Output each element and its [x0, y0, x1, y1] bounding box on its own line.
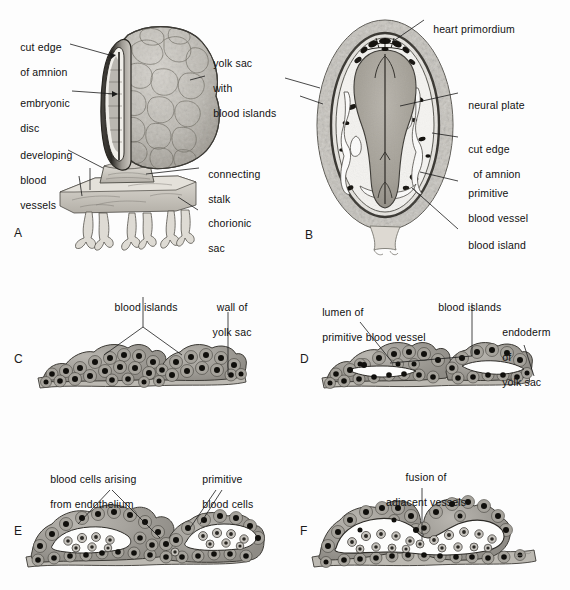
label-line: fusion of — [406, 471, 447, 483]
label-line: embryonic — [20, 97, 70, 109]
panel-letter-e: E — [14, 524, 23, 538]
label-neural-plate-b: neural plate — [462, 86, 525, 111]
label-line: from endothelium — [50, 498, 134, 510]
label-primitive-blood-cells-e: primitive blood cells — [196, 460, 253, 510]
label-heart-primordium-b: heart primordium — [427, 10, 515, 35]
panel-letter-d: D — [300, 352, 309, 366]
label-line: blood island — [468, 239, 526, 251]
label-yolk-sac-with-blood-islands-a: yolk sac with blood islands — [207, 44, 276, 120]
label-blood-islands-c: blood islands — [78, 288, 208, 313]
panel-b-illustration — [285, 18, 458, 255]
label-line: neural plate — [468, 99, 525, 111]
label-fusion-of-adjacent-vessels-f: fusion of adjacent vessels — [358, 458, 488, 508]
label-line: lumen of — [322, 306, 363, 318]
label-line: cut edge — [20, 41, 61, 53]
panel-letter-c: C — [14, 352, 23, 366]
label-line: wall of — [217, 301, 248, 313]
label-wall-of-yolk-sac-c: wall of yolk sac — [192, 288, 266, 338]
label-line: heart primordium — [433, 23, 515, 35]
label-blood-island-b: blood island — [462, 226, 526, 251]
label-line: blood — [20, 174, 46, 186]
label-line: blood islands — [438, 301, 501, 313]
label-line: vessels — [20, 199, 56, 211]
label-lumen-of-primitive-blood-vessel-d: lumen of primitive blood vessel — [316, 293, 426, 343]
label-line: primitive — [468, 187, 508, 199]
label-cut-edge-of-amnion-a: cut edge of amnion — [14, 28, 68, 78]
neural-plate-shape — [350, 46, 420, 212]
b-stalk-stub — [370, 226, 400, 255]
label-line: of amnion — [20, 66, 67, 78]
label-line: blood cells — [202, 498, 253, 510]
label-line: primitive — [202, 473, 242, 485]
yolk-sac-shape — [119, 24, 221, 170]
embryonic-disc-shape — [101, 39, 131, 170]
label-line: with — [213, 82, 232, 94]
panel-letter-f: F — [300, 524, 308, 538]
label-line: disc — [20, 122, 39, 134]
label-line: blood islands — [213, 107, 276, 119]
label-line: cut edge — [468, 143, 509, 155]
label-line: chorionic — [208, 217, 251, 229]
panel-letter-a: A — [14, 226, 23, 240]
label-blood-islands-d: blood islands — [432, 288, 501, 313]
label-line: sac — [208, 242, 225, 254]
label-line: endoderm — [502, 326, 550, 338]
label-line: yolk sac — [213, 57, 252, 69]
figure-plate: cut edge of amnion embryonic disc develo… — [0, 0, 570, 590]
label-line: adjacent vessels — [386, 496, 466, 508]
panel-a-illustration — [60, 24, 221, 250]
label-line: blood islands — [114, 301, 177, 313]
label-cut-edge-of-amnion-b: cut edge of amnion — [462, 130, 521, 180]
label-line: connecting — [208, 168, 260, 180]
label-line: yolk sac — [213, 326, 252, 338]
label-connecting-stalk-a: connecting stalk — [202, 155, 260, 205]
chorionic-villi — [75, 210, 194, 250]
label-embryonic-disc-a: embryonic disc — [14, 84, 70, 134]
panel-letter-b: B — [305, 228, 314, 242]
label-line: of — [502, 351, 511, 363]
label-primitive-blood-vessel-b: primitive blood vessel — [462, 174, 528, 224]
label-line: blood vessel — [468, 212, 528, 224]
label-line: developing — [20, 149, 72, 161]
label-blood-cells-arising-from-endothelium-e: blood cells arising from endothelium — [44, 460, 136, 510]
label-line: stalk — [208, 193, 230, 205]
label-line: yolk sac — [502, 376, 541, 388]
label-line: blood cells arising — [50, 473, 136, 485]
label-endoderm-of-yolk-sac-d: endoderm of yolk sac — [496, 313, 551, 389]
label-chorionic-sac-a: chorionic sac — [202, 204, 252, 254]
label-developing-blood-vessels-a: developing blood vessels — [14, 136, 72, 212]
label-line: primitive blood vessel — [322, 331, 426, 343]
